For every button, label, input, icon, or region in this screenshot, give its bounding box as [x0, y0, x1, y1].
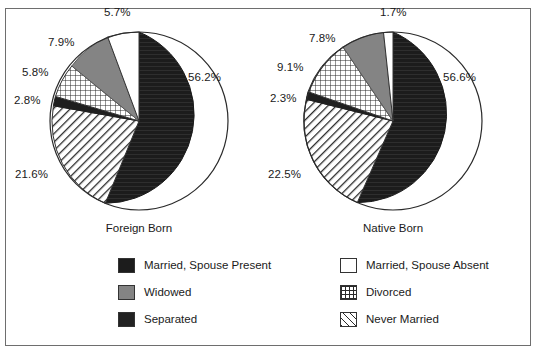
legend-label: Never Married [366, 314, 439, 326]
pct-label-native-widowed: 7.8% [309, 32, 336, 44]
white-swatch-icon [340, 258, 357, 273]
pct-label-foreign-widowed: 7.9% [48, 36, 75, 48]
pie-foreign-born [50, 32, 228, 210]
pct-label-foreign-married-spouse-absent: 5.7% [104, 6, 131, 18]
pct-label-native-separated: 2.3% [270, 92, 297, 104]
pct-label-foreign-divorced: 5.8% [22, 66, 49, 78]
pct-label-native-married-spouse-absent: 1.7% [380, 6, 407, 18]
legend-item-never-married[interactable]: Never Married [340, 312, 439, 327]
solid-black-swatch-icon [118, 258, 135, 273]
legend-label: Widowed [144, 287, 191, 299]
legend-item-separated[interactable]: Separated [118, 312, 197, 327]
diagonal-hatch-swatch-icon [340, 312, 357, 327]
legend-item-married-spouse-absent[interactable]: Married, Spouse Absent [340, 258, 489, 273]
legend-label: Divorced [366, 287, 411, 299]
legend-label: Separated [144, 314, 197, 326]
legend-label: Married, Spouse Present [144, 260, 271, 272]
grid-hatch-swatch-icon [340, 285, 357, 300]
pct-label-foreign-married-spouse-present: 56.2% [188, 71, 221, 83]
legend-item-divorced[interactable]: Divorced [340, 285, 411, 300]
pie-title-native-born: Native Born [333, 222, 453, 234]
pct-label-native-divorced: 9.1% [277, 61, 304, 73]
legend-item-widowed[interactable]: Widowed [118, 285, 191, 300]
pie-title-foreign-born: Foreign Born [79, 222, 199, 234]
pct-label-native-married-spouse-present: 56.6% [443, 71, 476, 83]
pie-chart-figure: 56.2% 5.7% 7.9% 5.8% 2.8% 21.6% 56.6% 1.… [0, 0, 537, 355]
pct-label-foreign-separated: 2.8% [14, 94, 41, 106]
pie-native-born [304, 32, 482, 210]
dark-swatch-icon [118, 312, 135, 327]
legend-label: Married, Spouse Absent [366, 260, 489, 272]
pct-label-native-never-married: 22.5% [268, 168, 301, 180]
pct-label-foreign-never-married: 21.6% [15, 168, 48, 180]
gray-swatch-icon [118, 285, 135, 300]
legend-item-married-spouse-present[interactable]: Married, Spouse Present [118, 258, 271, 273]
